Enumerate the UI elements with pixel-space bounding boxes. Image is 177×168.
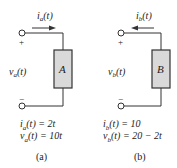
minus-sign-a: − <box>19 95 24 104</box>
element-b-label: B <box>157 63 164 75</box>
plus-sign-b: + <box>118 38 123 47</box>
caption-b: (b) <box>134 151 146 162</box>
equation-b-voltage: vb(t) = 20 − 2t <box>103 130 162 146</box>
current-arrow-b-icon <box>131 26 154 31</box>
terminal-b-top <box>118 30 124 36</box>
minus-sign-b: − <box>118 95 123 104</box>
current-label-a: ia(t) <box>37 10 53 25</box>
plus-sign-a: + <box>19 38 24 47</box>
element-a-label: A <box>59 63 66 75</box>
voltage-label-a: va(t) <box>9 66 26 81</box>
current-label-b: ib(t) <box>136 10 152 25</box>
voltage-label-b: vb(t) <box>108 66 125 81</box>
current-arrow-a-icon <box>32 26 56 31</box>
equation-a-voltage: va(t) = 10t <box>20 130 62 146</box>
terminal-a-top <box>19 30 25 36</box>
caption-a: (a) <box>36 151 47 162</box>
